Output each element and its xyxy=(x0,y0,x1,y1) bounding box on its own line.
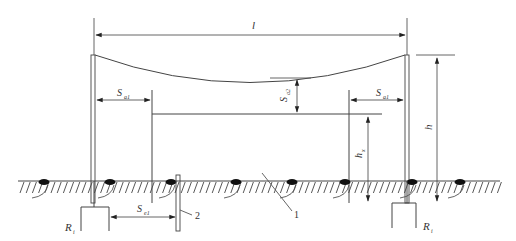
earth-distance-label: S xyxy=(137,203,142,214)
svg-text:i: i xyxy=(431,228,433,234)
svg-text:a1: a1 xyxy=(383,94,389,100)
callout-2-label: 2 xyxy=(195,210,200,221)
air-distance-left: S a1 xyxy=(97,87,150,100)
span-dimension: l xyxy=(94,18,407,55)
sag-distance: S a2 xyxy=(270,78,311,112)
span-label: l xyxy=(252,19,255,31)
protected-object xyxy=(152,90,382,203)
height-label: h xyxy=(422,124,434,130)
air-distance-right-label: S xyxy=(376,87,381,98)
svg-text:a1: a1 xyxy=(124,94,130,100)
air-distance-right: S a1 xyxy=(351,87,403,100)
ground-surface xyxy=(18,181,501,193)
earth-distance: S e1 xyxy=(111,203,175,217)
svg-text:x: x xyxy=(360,149,366,153)
overhead-wire xyxy=(95,55,405,83)
air-distance-left-label: S xyxy=(117,87,122,98)
callout-1-label: 1 xyxy=(294,209,299,220)
protected-height-dimension: h x xyxy=(353,117,368,201)
ground-resistance-left-label: R xyxy=(64,221,72,233)
protected-height-label: h xyxy=(353,153,364,158)
sag-distance-label: S xyxy=(278,97,289,102)
lightning-protection-diagram: l h S a1 S a1 S a2 xyxy=(0,0,516,241)
ground-resistance-right-label: R xyxy=(422,220,430,232)
grounding-rod: 2 xyxy=(176,175,200,231)
grounding-blobs xyxy=(32,179,466,198)
height-dimension: h xyxy=(416,55,455,201)
svg-text:a2: a2 xyxy=(285,89,291,95)
svg-text:e1: e1 xyxy=(144,210,150,216)
svg-text:i: i xyxy=(73,229,75,235)
